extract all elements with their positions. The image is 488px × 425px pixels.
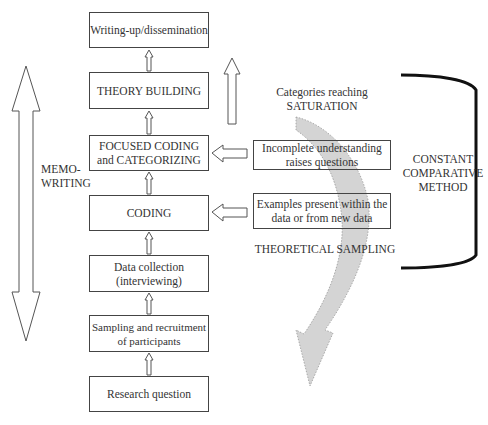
memo-line: MEMO- bbox=[41, 162, 91, 176]
bracket-line: COMPARATIVE bbox=[398, 166, 488, 180]
step-research-question: Research question bbox=[89, 376, 209, 412]
step-sampling: Sampling and recruitment of participants bbox=[89, 315, 209, 352]
step-label: (interviewing) bbox=[116, 274, 182, 288]
bracket-line: CONSTANT bbox=[398, 152, 488, 166]
step-label: and CATEGORIZING bbox=[97, 153, 201, 167]
step-label: Research question bbox=[107, 387, 191, 401]
incomplete-understanding-box: Incomplete understanding raises question… bbox=[253, 140, 391, 170]
examples-box: Examples present within the data or from… bbox=[253, 193, 391, 229]
feedback-label: raises questions bbox=[286, 155, 359, 169]
step-label: THEORY BUILDING bbox=[97, 84, 201, 98]
memo-writing-label: MEMO- WRITING bbox=[41, 162, 91, 190]
step-label: FOCUSED CODING bbox=[99, 139, 199, 153]
feedback-arrow-coding bbox=[212, 204, 247, 221]
step-theory-building: THEORY BUILDING bbox=[89, 72, 209, 109]
saturation-line: Categories reaching bbox=[262, 85, 382, 99]
diagram-graphics bbox=[0, 0, 488, 425]
saturation-line: SATURATION bbox=[262, 99, 382, 113]
step-label: Writing-up/dissemination bbox=[90, 23, 208, 37]
step-writing-up: Writing-up/dissemination bbox=[89, 12, 209, 48]
saturation-label: Categories reaching SATURATION bbox=[262, 85, 382, 113]
feedback-label: Incomplete understanding bbox=[262, 141, 382, 155]
step-label: Sampling and recruitment bbox=[92, 320, 206, 334]
constant-comparative-label: CONSTANT COMPARATIVE METHOD bbox=[398, 152, 488, 194]
step-data-collection: Data collection (interviewing) bbox=[89, 255, 209, 292]
memo-line: WRITING bbox=[41, 176, 91, 190]
step-focused-coding: FOCUSED CODING and CATEGORIZING bbox=[89, 135, 209, 171]
memo-writing-double-arrow bbox=[12, 66, 40, 341]
feedback-label: Examples present within the bbox=[257, 197, 388, 211]
feedback-arrow-focused bbox=[212, 145, 247, 162]
step-coding: CODING bbox=[89, 195, 209, 231]
step-label: CODING bbox=[127, 206, 172, 220]
step-label: of participants bbox=[117, 334, 180, 348]
bracket-line: METHOD bbox=[398, 180, 488, 194]
step-label: Data collection bbox=[114, 260, 184, 274]
feedback-label: data or from new data bbox=[272, 211, 373, 225]
theoretical-sampling-label: THEORETICAL SAMPLING bbox=[250, 242, 400, 256]
upward-arrow bbox=[224, 58, 240, 124]
